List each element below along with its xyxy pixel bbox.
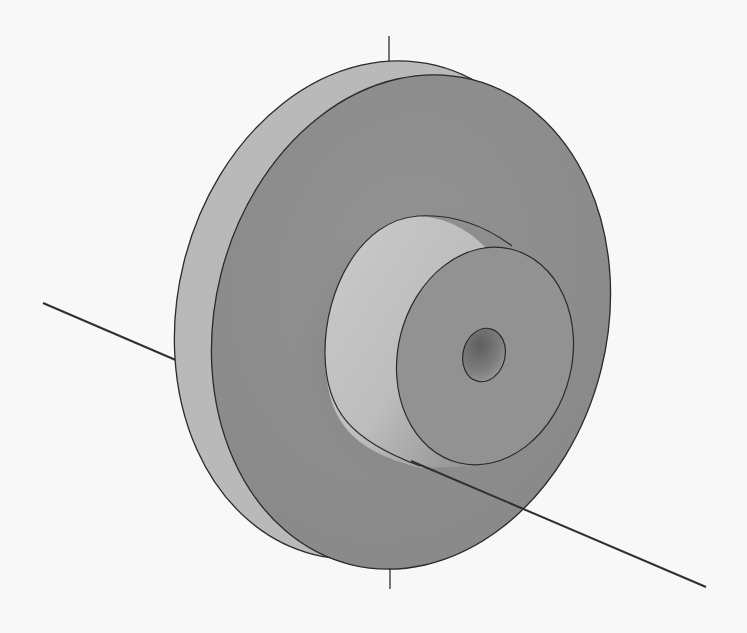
hub-drawing [0,0,747,633]
cad-figure [0,0,747,633]
axis-line-rear [43,303,178,361]
